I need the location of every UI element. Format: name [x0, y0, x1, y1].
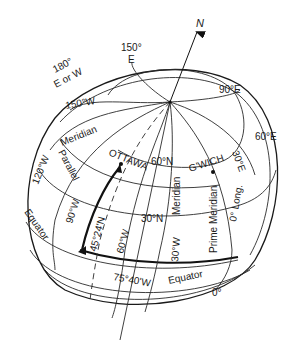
meridian-upper-label: Meridian [59, 123, 99, 148]
north-label: N [196, 17, 204, 29]
lon-30e-label: 30°E [230, 149, 248, 174]
lon-150e-label: 150° [121, 42, 142, 53]
lon-150w-label: 150°W [64, 95, 96, 111]
prime-meridian-label: Prime Meridian [208, 186, 219, 253]
equator-left-label: Equator [22, 207, 51, 243]
north-pole-point [168, 100, 171, 103]
greenwich-point [211, 170, 215, 174]
lon-60w-label: 60°W [114, 227, 131, 254]
zero-long-label: 0° Long. [227, 184, 244, 223]
globe-diagram: N 180° E or W 150° E 90°E 60°E 150°W Mer… [0, 0, 293, 347]
lon-ottawa-label: 75°40'W [113, 271, 152, 288]
lon-90e-label: 90°E [219, 84, 241, 95]
lon-150e-sub-label: E [128, 54, 135, 65]
equator-bottom-label: Equator [167, 268, 204, 286]
lat-60n-label: 60°N [151, 156, 173, 167]
zero-deg-label: 0° [212, 287, 222, 298]
parallel-label: Parallel [56, 148, 81, 183]
north-arrow [170, 32, 197, 102]
lon-90w-label: 90°W [63, 197, 81, 224]
lon-60e-label: 60°E [255, 131, 277, 142]
ottawa-label: OTTAWA [107, 147, 150, 173]
gwich-label: G'WICH [187, 152, 225, 174]
meridian-center-label: Meridian [171, 177, 182, 215]
lat-30n-label: 30°N [141, 213, 163, 224]
lon-30w-label: 30°W [169, 236, 182, 262]
